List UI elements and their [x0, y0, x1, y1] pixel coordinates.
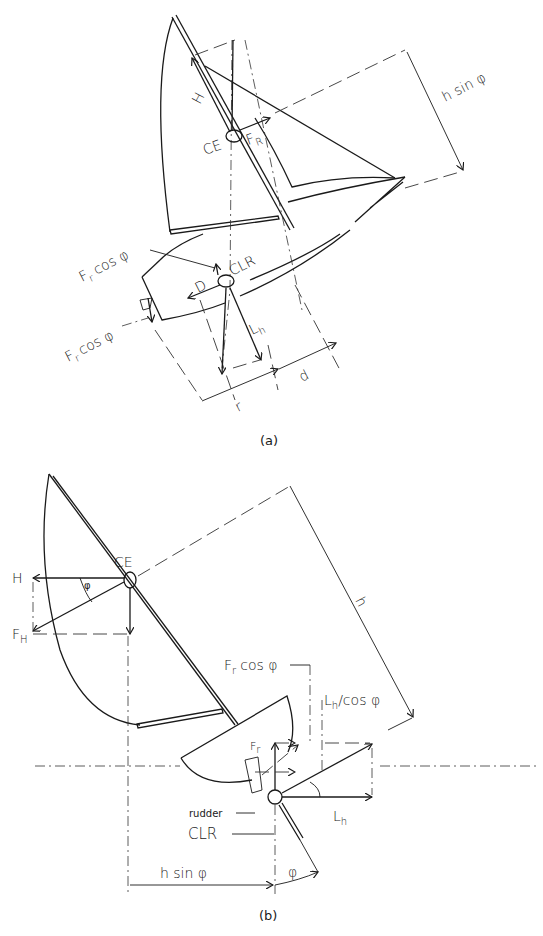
jib-leech	[205, 66, 395, 178]
panel-a-labels: H CE FR h sin φ Frcos φ CLR D Lh Frcos φ…	[62, 69, 488, 448]
label-r: r	[232, 398, 245, 415]
label-Lh-a: Lh	[246, 317, 267, 340]
jib-foot	[255, 118, 395, 187]
clr-point-b	[268, 790, 282, 804]
label-d: d	[296, 366, 311, 384]
force-Lh-vertical	[222, 288, 226, 374]
ce-point-a	[226, 130, 242, 142]
label-phi-small-ce: φ	[84, 580, 91, 591]
rudder-b	[245, 757, 262, 793]
label-FR: FR	[244, 128, 265, 151]
sailboat-force-diagram: H CE FR h sin φ Frcos φ CLR D Lh Frcos φ…	[0, 0, 543, 936]
label-FH: FH	[12, 626, 28, 645]
panel-b	[33, 474, 540, 896]
phi-arc-clr	[310, 782, 320, 797]
force-Lh-cos-phi	[282, 744, 372, 793]
force-FH-b	[33, 582, 124, 631]
label-Fr-b: Fr	[250, 740, 261, 755]
panel-b-labels: CE H FH φ h Frcos φ Lh/cos φ Fr rudder C…	[12, 554, 380, 923]
label-Fr-cos-phi-bottom: Frcos φ	[62, 327, 117, 368]
label-Lh-b: Lh	[333, 808, 347, 827]
mast-b	[49, 474, 235, 725]
hull-bow	[355, 177, 405, 222]
force-FR-arrow	[240, 118, 270, 130]
dim-d	[279, 343, 336, 369]
caption-a: (a)	[260, 433, 278, 448]
caption-b: (b)	[259, 908, 277, 923]
label-Lh-cos-phi: Lh/cos φ	[324, 692, 380, 711]
label-CE-b: CE	[114, 554, 133, 570]
label-H-b: H	[12, 570, 23, 586]
dim-r	[202, 369, 278, 401]
label-rudder: rudder	[189, 808, 223, 819]
label-CLR-b: CLR	[188, 825, 217, 843]
mainsail-luff-curve	[161, 18, 173, 232]
label-CE-a: CE	[201, 136, 224, 157]
label-phi-b: φ	[288, 864, 297, 880]
label-Fr-cos-phi-top: Frcos φ	[76, 246, 132, 287]
label-CLR-a: CLR	[226, 252, 258, 279]
boom	[170, 216, 279, 234]
hull-transom	[142, 277, 225, 320]
dim-h-sin-phi-a	[407, 52, 463, 170]
label-H-a: H	[189, 90, 208, 107]
panel-a	[122, 15, 463, 401]
label-h-sin-phi-b: h sin φ	[160, 865, 207, 881]
boom-b	[137, 709, 223, 728]
label-D: D	[192, 277, 209, 296]
hull-b	[181, 696, 293, 758]
dim-h	[290, 486, 413, 717]
label-h-sin-phi-a: h sin φ	[439, 69, 488, 105]
label-Fr-cos-phi-b: Frcos φ	[224, 657, 277, 676]
label-h: h	[352, 594, 370, 609]
keel-b	[279, 803, 303, 840]
